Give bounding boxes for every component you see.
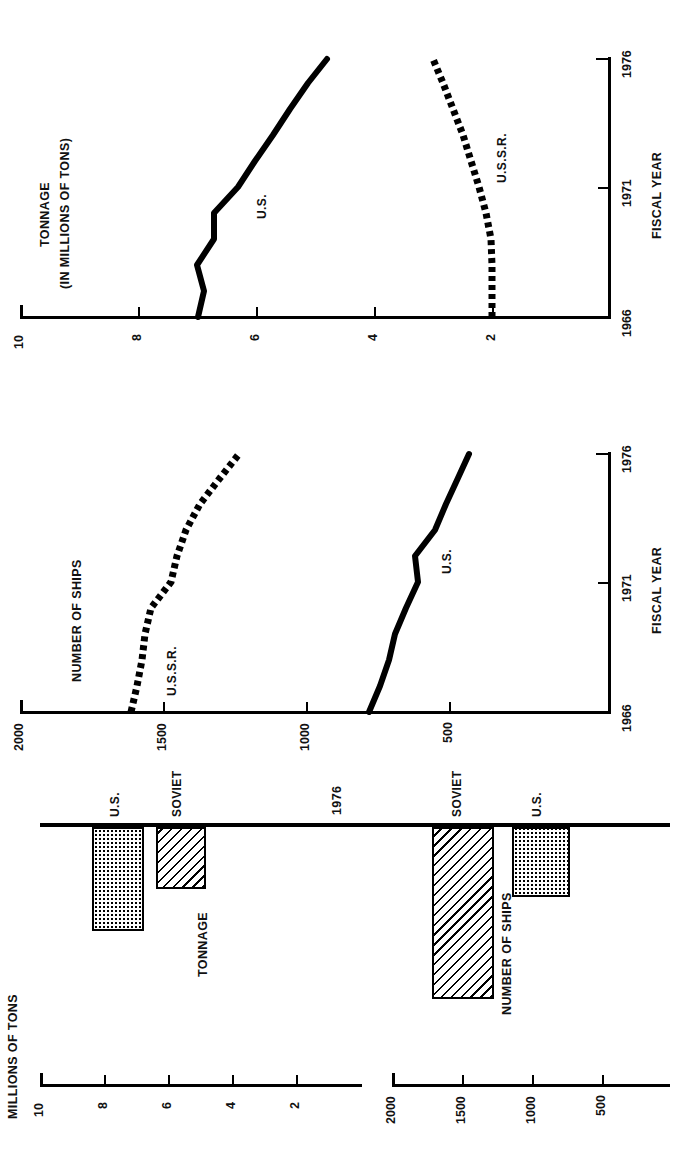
tonnage-axis-end-cap [40,1073,43,1087]
tonnage-tick-label-4: 4 [224,1102,238,1109]
tonnage-tick-4 [232,1075,234,1087]
bar-chart-year-label: 1976 [330,786,344,815]
bar-label-soviet-tonnage: SOVIET [170,771,184,817]
ships-line-plot [0,414,699,754]
ships-axis-line [392,1084,670,1087]
ussr-tonnage-series-label: U.S.S.R. [495,133,509,183]
figure-canvas: 10 8 6 4 2 MILLIONS OF TONS 2000 1500 10… [0,0,699,1149]
panel-tonnage-line: 10 8 6 4 2 1966 1971 1976 FISCAL YEAR TO… [0,19,699,359]
tonnage-tick-8 [104,1075,106,1087]
tonnage-line-plot [0,19,699,359]
tonnage-tick-2 [296,1075,298,1087]
bar-us-ships [512,827,570,897]
ussr-tonnage-series [433,59,492,317]
panel-number-of-ships-line: 2000 1500 1000 500 1966 1971 1976 FISCAL… [0,414,699,754]
us-ships-series [369,454,469,712]
bar-label-us-ships: U.S. [530,792,544,817]
us-ships-series-label: U.S. [440,549,454,574]
ships-tick-1500 [462,1075,464,1087]
tonnage-group-label: TONNAGE [196,912,210,977]
tonnage-axis-line [40,1084,362,1087]
bar-label-us-tonnage: U.S. [108,792,122,817]
us-tonnage-series-label: U.S. [255,194,269,219]
rotated-figure-wrapper: 10 8 6 4 2 MILLIONS OF TONS 2000 1500 10… [0,0,699,1149]
bar-us-tonnage [92,827,144,931]
panel-bar-chart-1976: 10 8 6 4 2 MILLIONS OF TONS 2000 1500 10… [0,797,699,1127]
ships-group-label: NUMBER OF SHIPS [500,892,514,1015]
tonnage-tick-label-6: 6 [160,1102,174,1109]
figure-page: 10 8 6 4 2 MILLIONS OF TONS 2000 1500 10… [0,0,699,1149]
ussr-ships-series-label: U.S.S.R. [165,646,179,696]
ussr-ships-series [131,454,239,712]
us-tonnage-series [197,59,327,317]
millions-of-tons-axis-title: MILLIONS OF TONS [6,994,20,1119]
ships-tick-label-500: 500 [594,1095,608,1116]
ships-tick-label-1500: 1500 [454,1096,468,1124]
tonnage-tick-label-2: 2 [288,1102,302,1109]
ships-axis-end-cap [392,1073,395,1087]
tonnage-tick-label-10: 10 [32,1103,46,1117]
bar-label-soviet-ships: SOVIET [450,771,464,817]
tonnage-tick-6 [168,1075,170,1087]
bar-soviet-tonnage [156,827,206,889]
ships-tick-500 [602,1075,604,1087]
ships-tick-1000 [532,1075,534,1087]
tonnage-tick-label-8: 8 [96,1102,110,1109]
ships-tick-label-2000: 2000 [384,1096,398,1124]
ships-tick-label-1000: 1000 [524,1096,538,1124]
bar-soviet-ships [432,827,494,999]
